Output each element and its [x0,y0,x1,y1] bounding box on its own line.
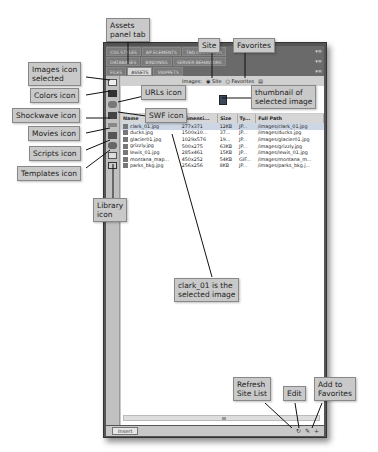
table-row[interactable]: montana_map...450x25254KBGIF.../images/m… [121,156,324,163]
col-type[interactable]: Ty... [237,114,256,123]
col-full-path[interactable]: Full Path [256,114,324,123]
row-name: ducks.jpg [130,130,153,135]
panel-menu-icon[interactable]: ▾≡ [315,48,324,54]
assets-content: Images: ◉ Site ○ Favorites ▤ Name Dimens… [106,76,324,425]
callout-library-icon: Library icon [93,198,127,222]
table-row[interactable]: ducks.jpg1500x10...37...JP.../images/duc… [121,130,324,137]
callout-scripts-icon: Scripts icon [29,146,81,161]
refresh-icon[interactable]: ↻ [296,428,302,434]
templates-icon[interactable] [108,152,117,159]
col-size[interactable]: Size [218,114,237,123]
panel-menu-icon[interactable]: ▾≡ [315,68,324,74]
row-type: JP... [237,130,256,137]
callout-refresh: Refresh Site List [233,377,271,401]
library-icon[interactable] [108,162,117,169]
callout-favorites: Favorites [233,38,275,53]
scrollbar-thumb[interactable] [222,417,226,420]
table-row[interactable]: glacier01.jpg1029x57619...JP.../images/g… [121,136,324,143]
callout-movies-icon: Movies icon [28,126,80,141]
colors-icon[interactable] [108,90,117,97]
image-file-icon [123,163,128,168]
tab-ap-elements[interactable]: AP ELEMENTS [142,47,181,56]
row-type: JP... [237,163,256,170]
row-type: JP... [237,143,256,150]
tab-bindings[interactable]: BINDINGS [141,57,171,66]
radio-favorites[interactable]: ○ Favorites [226,78,255,84]
row-type: JP... [237,123,256,130]
row-name: montana_map... [130,157,169,162]
callout-colors-icon: Colors icon [30,88,79,103]
row-size: 37... [218,130,237,137]
callout-add-favorites: Add to Favorites [314,377,356,401]
row-name: grizzly.jpg [130,143,154,148]
add-to-favorites-icon[interactable]: + [314,428,320,434]
images-icon[interactable] [108,79,117,86]
image-file-icon [123,130,128,135]
row-type: GIF... [237,156,256,163]
row-path: /images/montana_m... [256,156,324,163]
tab-databases[interactable]: DATABASES [106,57,140,66]
row-path: /images/glacier01.jpg [256,136,324,143]
row-dim: 256x256 [180,163,218,170]
radio-favorites-label: Favorites [232,78,255,84]
callout-swf-icon: SWF icon [145,108,187,123]
table-row[interactable]: parks_bkg.jpg256x2568KBJP.../images/park… [121,163,324,170]
assets-main: Images: ◉ Site ○ Favorites ▤ Name Dimens… [121,76,324,425]
radio-site-label: Site [212,78,222,84]
row-path: /images/ducks.jpg [256,130,324,137]
insert-button[interactable]: Insert [112,427,138,435]
swf-icon[interactable] [108,112,117,119]
table-row[interactable]: lewis_01.jpg285x46115KBJP.../images/lewi… [121,149,324,156]
row-size: 19... [218,136,237,143]
image-file-icon [123,150,128,155]
row-path: /images/lewis_01.jpg [256,149,324,156]
callout-assets-tab: Assets panel tab [106,18,150,42]
image-file-icon [123,137,128,142]
row-name: parks_bkg.jpg [130,163,163,168]
favorites-list-icon: ▤ [258,78,263,84]
scripts-icon[interactable] [108,142,117,149]
panel-menu-icon[interactable]: ▾≡ [315,58,324,64]
radio-site[interactable]: ◉ Site [206,78,222,84]
callout-selected-image: clark_01 is the selected image [174,278,239,302]
callout-site: Site [198,38,220,53]
tab-group-files: FILES ASSETS SNIPPETS ▾≡ [106,66,324,76]
image-file-icon [123,157,128,162]
row-path: /images/parks_bkg.j... [256,163,324,170]
row-dim: 450x252 [180,156,218,163]
table-row[interactable]: clark_01.jpg277x37112KBJP.../images/clar… [121,123,324,130]
row-dim: 1029x576 [180,136,218,143]
callout-urls-icon: URLs icon [141,85,186,100]
tab-assets[interactable]: ASSETS [127,67,152,76]
row-dim: 500x275 [180,143,218,150]
row-size: 8KB [218,163,237,170]
tab-snippets[interactable]: SNIPPETS [153,67,182,76]
table-row[interactable]: grizzly.jpg500x27563KBJP.../images/grizz… [121,143,324,150]
thumbnail-image [219,95,227,105]
edit-icon[interactable]: ✎ [305,428,311,434]
callout-images-icon: Images icon selected [28,62,81,86]
image-file-icon [123,124,128,129]
asset-category-strip [106,76,120,425]
horizontal-scrollbar[interactable] [123,415,320,421]
image-file-icon [123,144,128,149]
row-dim: 1500x10... [180,130,218,137]
row-type: JP... [237,149,256,156]
tab-css-styles[interactable]: CSS STYLES [106,47,141,56]
row-path: /images/clark_01.jpg [256,123,324,130]
row-size: 63KB [218,143,237,150]
shockwave-icon[interactable] [108,123,117,127]
tab-group-databases: DATABASES BINDINGS SERVER BEHAVIORS ▾≡ [106,56,324,66]
row-size: 15KB [218,149,237,156]
callout-shockwave-icon: Shockwave icon [12,108,80,123]
movies-icon[interactable] [108,132,117,139]
row-path: /images/grizzly.jpg [256,143,324,150]
callout-thumbnail: thumbnail of selected image [251,85,316,109]
row-name: glacier01.jpg [130,137,161,142]
tab-server-behaviors[interactable]: SERVER BEHAVIORS [173,57,226,66]
images-label: Images: [182,78,202,84]
row-name: lewis_01.jpg [130,150,160,155]
tab-files[interactable]: FILES [106,67,126,76]
urls-icon[interactable] [108,101,117,108]
row-type: JP... [237,136,256,143]
